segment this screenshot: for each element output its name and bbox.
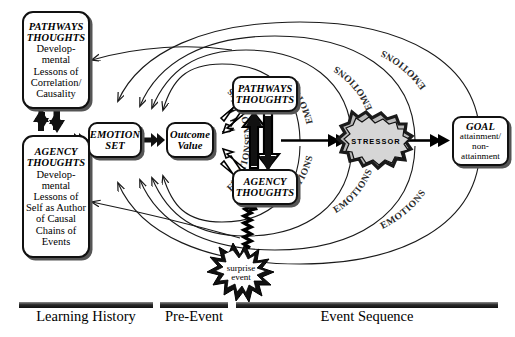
arrow-pathways-agency-bidirectional xyxy=(243,110,279,172)
box-header: PATHWAYS THOUGHTS xyxy=(27,21,86,44)
box-body: Develop- mental Lessons of Self as Autho… xyxy=(26,169,86,248)
box-pathways-thoughts-history[interactable]: PATHWAYS THOUGHTS Develop- mental Lesson… xyxy=(22,11,90,109)
surprise-event-shape: surprise event xyxy=(207,243,274,302)
box-header: EMOTION SET xyxy=(90,129,140,152)
box-body: Develop- mental Lessons of Correlation/ … xyxy=(31,43,82,99)
box-emotion-set[interactable]: EMOTION SET xyxy=(88,122,142,158)
box-body: attainment/ non- attainment xyxy=(460,132,501,162)
box-header: Outcome Value xyxy=(170,129,210,152)
box-header: AGENCY THOUGHTS xyxy=(236,176,295,199)
arrow-history-bidirectional xyxy=(33,109,65,133)
phase-label-learning-history: Learning History xyxy=(19,308,153,325)
box-header: AGENCY THOUGHTS xyxy=(27,146,86,169)
box-agency-thoughts-event[interactable]: AGENCY THOUGHTS xyxy=(232,169,298,205)
arrow-emotion-set-to-outcome xyxy=(144,133,165,147)
box-goal-attainment[interactable]: GOAL attainment/ non- attainment xyxy=(452,116,509,166)
box-header: PATHWAYS THOUGHTS xyxy=(236,83,295,106)
phase-label-pre-event: Pre-Event xyxy=(154,308,234,325)
diagram-canvas: EMOTIONS EMOTIONS EMOTIONS EMOTIONS xyxy=(0,0,515,337)
phase-label-event-sequence: Event Sequence xyxy=(236,308,498,325)
arrow-surprise-to-agency xyxy=(244,200,258,248)
box-pathways-thoughts-event[interactable]: PATHWAYS THOUGHTS xyxy=(232,76,298,112)
box-outcome-value[interactable]: Outcome Value xyxy=(166,122,214,158)
box-agency-thoughts-history[interactable]: AGENCY THOUGHTS Develop- mental Lessons … xyxy=(22,135,90,258)
stressor-shape: STRESSOR xyxy=(338,112,412,168)
stressor-label: STRESSOR xyxy=(351,137,400,146)
surprise-event-label-line2: event xyxy=(231,272,251,282)
